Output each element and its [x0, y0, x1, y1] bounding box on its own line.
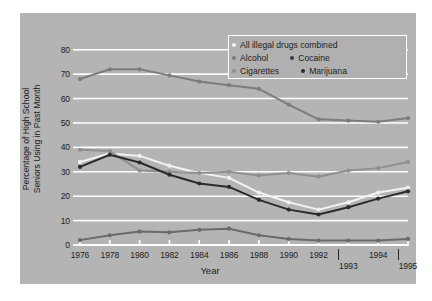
- series-marker: [346, 239, 350, 243]
- series-marker: [316, 239, 320, 243]
- x-tick-label: 1992: [299, 250, 339, 260]
- y-tick-label: 20: [40, 191, 70, 201]
- series-marker: [406, 160, 410, 164]
- chart-figure: 01020304050607080 1976197819801982198419…: [0, 0, 432, 301]
- legend-label: Alcohol: [240, 53, 268, 63]
- legend-marker-icon: [301, 69, 305, 73]
- series-marker: [287, 103, 291, 107]
- series-marker: [287, 171, 291, 175]
- series-marker: [346, 205, 350, 209]
- series-marker: [138, 154, 142, 158]
- y-tick-label: 50: [40, 118, 70, 128]
- series-marker: [108, 149, 112, 153]
- series-marker: [138, 160, 142, 164]
- series-marker: [227, 185, 231, 189]
- legend-entry: Alcohol: [232, 53, 268, 63]
- series-marker: [197, 171, 201, 175]
- series-marker: [406, 186, 410, 190]
- series-marker: [346, 168, 350, 172]
- legend-label: Cigarettes: [240, 66, 279, 76]
- series-marker: [227, 83, 231, 87]
- series-marker: [108, 67, 112, 71]
- series-marker: [138, 168, 142, 172]
- series-marker: [257, 233, 261, 237]
- series-marker: [78, 238, 82, 242]
- legend-row: CigarettesMarijuana: [232, 64, 406, 77]
- series-line: [80, 150, 408, 177]
- series-marker: [257, 198, 261, 202]
- series-marker: [287, 208, 291, 212]
- series-marker: [227, 176, 231, 180]
- series-marker: [167, 73, 171, 77]
- y-axis-title: Percentage of High School Seniors Using …: [21, 39, 43, 239]
- legend-entry: Marijuana: [301, 66, 347, 76]
- y-tick-label: 40: [40, 142, 70, 152]
- series-marker: [257, 87, 261, 91]
- y-tick-label: 60: [40, 94, 70, 104]
- legend-entry: Cocaine: [290, 53, 330, 63]
- series-marker: [346, 200, 350, 204]
- legend-label: Cocaine: [298, 53, 330, 63]
- legend-marker-icon: [290, 56, 294, 60]
- series-marker: [197, 228, 201, 232]
- y-axis-title-line2: Seniors Using in Past Month: [32, 39, 43, 239]
- legend-marker-icon: [232, 56, 236, 60]
- series-marker: [346, 118, 350, 122]
- y-tick-label: 80: [40, 45, 70, 55]
- series-marker: [108, 153, 112, 157]
- series-marker: [138, 67, 142, 71]
- series-marker: [227, 227, 231, 231]
- series-marker: [287, 237, 291, 241]
- legend-entry: Cigarettes: [232, 66, 279, 76]
- series-marker: [78, 160, 82, 164]
- series-marker: [257, 190, 261, 194]
- series-marker: [197, 79, 201, 83]
- series-marker: [316, 208, 320, 212]
- series-marker: [287, 200, 291, 204]
- y-axis-title-line1: Percentage of High School: [21, 39, 32, 239]
- x-tick-label: 1994: [358, 250, 398, 260]
- legend-row: All illegal drugs combined: [232, 38, 406, 51]
- x-axis-title: Year: [150, 265, 270, 276]
- series-marker: [406, 189, 410, 193]
- x-label-separator: [398, 249, 399, 260]
- legend-marker-icon: [232, 43, 236, 47]
- series-marker: [257, 173, 261, 177]
- series-marker: [376, 120, 380, 124]
- series-marker: [197, 181, 201, 185]
- gridlines: [73, 50, 408, 245]
- series-line: [80, 229, 408, 241]
- y-tick-label: 10: [40, 216, 70, 226]
- series-marker: [167, 173, 171, 177]
- series-marker: [316, 212, 320, 216]
- series-marker: [78, 77, 82, 81]
- series-marker: [138, 229, 142, 233]
- chart-legend: All illegal drugs combinedAlcoholCocaine…: [228, 35, 407, 79]
- legend-entry: All illegal drugs combined: [232, 40, 337, 50]
- y-tick-label: 70: [40, 69, 70, 79]
- series-marker: [316, 175, 320, 179]
- x-tick-label: 1995: [388, 261, 428, 271]
- series-marker: [376, 239, 380, 243]
- series-marker: [376, 197, 380, 201]
- series-marker: [78, 165, 82, 169]
- series-marker: [108, 233, 112, 237]
- y-tick-label: 30: [40, 167, 70, 177]
- series-marker: [316, 117, 320, 121]
- legend-row: AlcoholCocaine: [232, 51, 406, 64]
- legend-marker-icon: [232, 69, 236, 73]
- series-marker: [167, 164, 171, 168]
- series-marker: [406, 116, 410, 120]
- x-label-separator: [338, 249, 339, 260]
- x-tick-label: 1993: [328, 261, 368, 271]
- series-line: [80, 153, 408, 209]
- series-marker: [78, 148, 82, 152]
- series-marker: [406, 237, 410, 241]
- series-marker: [376, 190, 380, 194]
- series-marker: [376, 166, 380, 170]
- series-marker: [167, 230, 171, 234]
- data-series-layer: [78, 67, 410, 243]
- legend-label: Marijuana: [309, 66, 347, 76]
- series-marker: [227, 170, 231, 174]
- legend-label: All illegal drugs combined: [240, 40, 337, 50]
